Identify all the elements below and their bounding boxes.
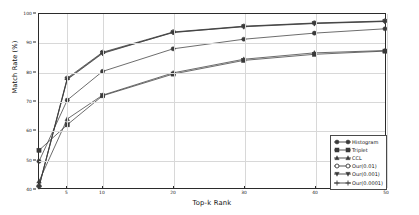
x-axis-tick-label: 40: [312, 190, 318, 195]
x-axis-title: Top-k Rank: [38, 199, 386, 207]
gridline-vertical: [387, 14, 388, 188]
legend-marker-icon: [333, 146, 352, 154]
legend-item-our-0-001[interactable]: Our(0.001): [333, 170, 383, 178]
y-axis-tick-label: 80: [26, 69, 32, 74]
gridline-vertical: [103, 14, 104, 188]
data-point-marker: [335, 164, 339, 168]
legend-item-histogram[interactable]: Histogram: [333, 138, 383, 146]
y-axis-tick-mark: [33, 13, 36, 14]
y-axis-tick-group: 100908070605040: [0, 13, 36, 189]
data-point-marker: [335, 180, 340, 185]
y-axis-tick-mark: [33, 101, 36, 102]
y-axis-tick-label: 50: [26, 157, 32, 162]
legend-item-our-0-0001[interactable]: Our(0.0001): [333, 178, 383, 186]
legend-item-our-0-01[interactable]: Our(0.01): [333, 162, 383, 170]
x-axis-tick-mark: [66, 186, 67, 189]
y-axis-tick-label: 40: [26, 187, 32, 192]
chart-legend: HistogramTripletCCLOur(0.01)Our(0.001)Ou…: [330, 135, 387, 190]
data-point-marker: [335, 140, 339, 144]
data-point-marker: [346, 173, 350, 177]
x-axis-tick-mark: [102, 186, 103, 189]
chart-figure: Match Rate (%) 100908070605040 510203040…: [0, 0, 419, 215]
gridline-horizontal: [39, 73, 385, 74]
data-point-marker: [346, 180, 351, 185]
gridline-vertical: [67, 14, 68, 188]
legend-marker-icon: [333, 154, 352, 162]
legend-item-label: Our(0.0001): [352, 179, 383, 187]
y-axis-tick-mark: [33, 71, 36, 72]
x-axis-tick-mark: [315, 186, 316, 189]
legend-item-label: Triplet: [352, 146, 368, 154]
y-axis-tick-mark: [33, 159, 36, 160]
gridline-horizontal: [39, 102, 385, 103]
gridline-vertical: [245, 14, 246, 188]
y-axis-tick-label: 60: [26, 128, 32, 133]
legend-item-label: CCL: [352, 154, 362, 162]
y-axis-tick-label: 90: [26, 40, 32, 45]
data-point-marker: [335, 173, 339, 177]
y-axis-tick-mark: [33, 42, 36, 43]
x-axis-tick-label: 50: [383, 190, 389, 195]
legend-marker-icon: [333, 170, 352, 178]
legend-item-ccl[interactable]: CCL: [333, 154, 383, 162]
y-axis-tick-label: 70: [26, 99, 32, 104]
x-axis-tick-label: 10: [99, 190, 105, 195]
x-axis-tick-label: 20: [170, 190, 176, 195]
data-point-marker: [346, 156, 350, 160]
x-axis-tick-mark: [173, 186, 174, 189]
y-axis-tick-mark: [33, 130, 36, 131]
legend-item-label: Our(0.001): [352, 170, 380, 178]
y-axis-tick-mark: [33, 189, 36, 190]
legend-item-triplet[interactable]: Triplet: [333, 146, 383, 154]
gridline-vertical: [174, 14, 175, 188]
legend-item-label: Our(0.01): [352, 162, 377, 170]
data-point-marker: [346, 140, 350, 144]
data-point-marker: [335, 156, 339, 160]
data-point-marker: [335, 148, 339, 152]
data-point-marker: [346, 164, 350, 168]
x-axis-tick-mark: [244, 186, 245, 189]
gridline-horizontal: [39, 131, 385, 132]
gridline-horizontal: [39, 43, 385, 44]
y-axis-tick-label: 100: [23, 11, 32, 16]
data-point-marker: [37, 148, 41, 152]
data-point-marker: [346, 148, 350, 152]
legend-marker-icon: [333, 179, 352, 187]
x-axis-tick-label: 5: [65, 190, 68, 195]
x-axis-tick-label: 30: [241, 190, 247, 195]
legend-marker-icon: [333, 138, 352, 146]
legend-item-label: Histogram: [352, 138, 378, 146]
gridline-vertical: [316, 14, 317, 188]
legend-marker-icon: [333, 162, 352, 170]
